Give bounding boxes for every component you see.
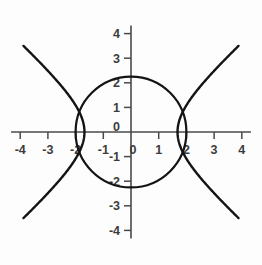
y-tick-label-4: 4	[113, 27, 120, 41]
y-tick-label-3: 3	[113, 52, 120, 66]
y-tick-label--3: -3	[109, 199, 120, 213]
plot-canvas: -4-3-2-11234-4-3-2-1123400	[0, 0, 262, 265]
x-tick-label--4: -4	[15, 143, 26, 157]
x-tick-label-1: 1	[155, 143, 162, 157]
x-tick-label--1: -1	[98, 143, 109, 157]
y-tick-label--4: -4	[109, 224, 120, 238]
graph-figure: -4-3-2-11234-4-3-2-1123400	[0, 0, 262, 265]
y-tick-label-1: 1	[113, 101, 120, 115]
x-tick-label--3: -3	[42, 143, 53, 157]
origin-label-x-axis: 0	[130, 143, 137, 157]
origin-label-y-axis: 0	[113, 120, 120, 134]
x-tick-label-4: 4	[238, 143, 245, 157]
y-tick-label--1: -1	[109, 150, 120, 164]
x-tick-label-3: 3	[211, 143, 218, 157]
